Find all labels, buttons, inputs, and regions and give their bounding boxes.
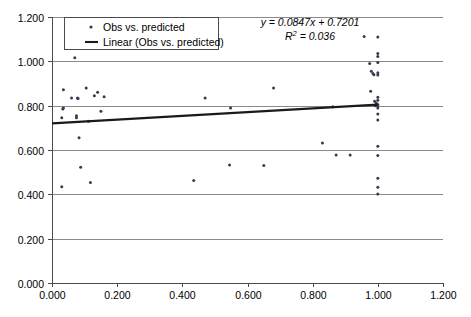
data-point [228,164,231,167]
data-point [376,52,379,55]
data-point [62,106,65,109]
data-point [272,86,275,89]
x-tick-label: 0.000 [39,289,65,301]
data-point [376,106,379,109]
data-point [376,74,379,77]
data-point [70,96,73,99]
data-points [60,35,379,195]
x-tick-label: 0.800 [300,289,326,301]
data-point [60,185,63,188]
y-tick-label: 1.000 [18,56,44,68]
data-point [89,181,92,184]
data-point [363,35,366,38]
chart-canvas: 0.0000.2000.4000.6000.8001.0001.200 0.00… [0,0,471,317]
data-point [376,35,379,38]
x-tick-label: 1.200 [430,289,456,301]
data-point [96,91,99,94]
r-squared-value: = 0.036 [297,30,335,42]
y-axis-tick-labels: 0.0000.2000.4000.6000.8001.0001.200 [18,12,44,290]
x-tick-label: 0.400 [169,289,195,301]
data-point [376,192,379,195]
data-point [192,179,195,182]
data-point [335,154,338,157]
y-tick-label: 0.000 [18,278,44,290]
r-squared-text: R2 = 0.036 [285,29,335,42]
x-tick-label: 1.000 [365,289,391,301]
data-point [77,97,80,100]
legend-label-trendline: Linear (Obs vs. predicted) [103,36,224,48]
y-tick-label: 0.800 [18,101,44,113]
data-point [62,88,65,91]
y-tick-label: 1.200 [18,12,44,24]
data-point [372,73,375,76]
data-point [262,164,265,167]
data-point [376,186,379,189]
legend[interactable]: Obs vs. predicted Linear (Obs vs. predic… [64,17,224,49]
data-point [229,106,232,109]
data-point [376,154,379,157]
legend-marker-dot-icon [89,25,92,28]
y-tick-label: 0.200 [18,234,44,246]
data-point [99,110,102,113]
data-point [85,86,88,89]
data-point [376,145,379,148]
scatter-chart: 0.0000.2000.4000.6000.8001.0001.200 0.00… [0,0,471,317]
data-point [321,141,324,144]
data-point [75,116,78,119]
data-point [103,95,106,98]
data-point [376,177,379,180]
data-point [368,62,371,65]
x-tick-label: 0.200 [104,289,130,301]
data-point [73,56,76,59]
data-point [60,116,63,119]
data-point [376,55,379,58]
data-point [79,166,82,169]
equation-text: y = 0.0847x + 0.7201 [260,16,360,28]
gridlines [52,18,443,240]
regression-annotation: y = 0.0847x + 0.7201 R2 = 0.036 [260,16,360,42]
y-tick-label: 0.600 [18,145,44,157]
data-point [376,96,379,99]
data-point [376,113,379,116]
y-tick-label: 0.400 [18,189,44,201]
trendline [52,105,378,124]
data-point [376,99,379,102]
axis-ticks [48,18,444,288]
x-tick-label: 0.600 [235,289,261,301]
data-point [369,90,372,93]
data-point [78,136,81,139]
legend-label-series: Obs vs. predicted [103,21,185,33]
data-point [376,119,379,122]
data-point [376,61,379,64]
data-point [93,94,96,97]
data-point [204,96,207,99]
data-point [349,154,352,157]
x-axis-tick-labels: 0.0000.2000.4000.6000.8001.0001.200 [39,289,456,301]
regression-line [52,105,378,124]
